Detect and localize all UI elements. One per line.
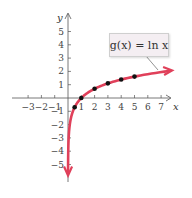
- data-point: [79, 96, 84, 101]
- y-axis-label: y: [56, 12, 63, 23]
- data-point: [72, 105, 77, 110]
- y-tick-label: −5: [51, 160, 65, 170]
- y-tick-label: 5: [58, 27, 64, 37]
- function-label: g(x) = ln x: [109, 33, 169, 57]
- y-tick-label: 3: [58, 53, 64, 63]
- x-axis-label: x: [173, 101, 179, 112]
- curve-path: [68, 71, 169, 172]
- x-tick-label: 5: [132, 102, 138, 112]
- ln-graph: xy −3−2−11234567−5−4−3−2−112345: [0, 0, 192, 198]
- y-tick-label: −3: [51, 133, 65, 143]
- y-tick-label: 2: [58, 66, 64, 76]
- data-point: [132, 74, 137, 79]
- data-point: [119, 77, 124, 82]
- x-tick-label: 2: [92, 102, 98, 112]
- x-tick-label: 3: [105, 102, 111, 112]
- y-tick-label: −2: [51, 120, 64, 130]
- x-tick-label: 6: [145, 102, 151, 112]
- x-tick-label: −3: [21, 102, 35, 112]
- label-connector: [146, 56, 158, 70]
- x-tick-label: 1: [78, 102, 84, 112]
- y-tick-label: 4: [58, 40, 64, 50]
- ln-curve: [64, 67, 172, 175]
- x-tick-label: −2: [35, 102, 48, 112]
- data-point: [106, 81, 111, 86]
- x-tick-label: 4: [118, 102, 124, 112]
- x-tick-label: 7: [158, 102, 164, 112]
- y-tick-label: −1: [51, 106, 64, 116]
- y-tick-label: −4: [51, 146, 65, 156]
- y-tick-label: 1: [58, 80, 64, 90]
- data-point: [92, 87, 97, 92]
